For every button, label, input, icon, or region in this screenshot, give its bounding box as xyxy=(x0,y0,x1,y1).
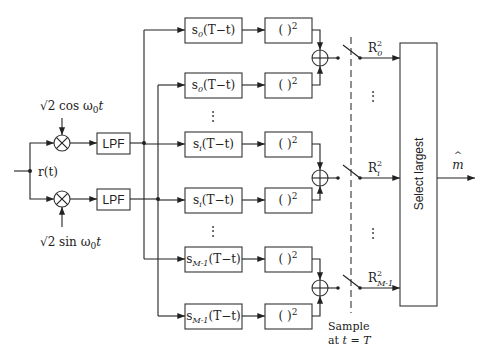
sin-reference-label: √2 sin ω0t xyxy=(40,235,101,251)
select-largest-block: Select largest xyxy=(400,43,437,306)
filter-row: sM-1(T−t)( )2 xyxy=(185,304,312,329)
input-label: r(t) xyxy=(38,165,58,179)
output-label: R2M-1 xyxy=(368,269,393,288)
bottom-lpf: LPF xyxy=(97,189,130,210)
squarer-to-adder xyxy=(312,296,320,316)
matched-filter: sM-1(T−t) xyxy=(185,304,242,329)
svg-text:LPF: LPF xyxy=(102,193,124,207)
cos-reference-label: √2 cos ω0t xyxy=(40,99,104,115)
filter-row: sM-1(T−t)( )2 xyxy=(185,247,312,272)
switch-input-node xyxy=(336,56,340,60)
sampler-label-line2: at t = T xyxy=(328,334,372,347)
output-ellipsis-upper: ⋮ xyxy=(367,89,379,103)
output-label: R20 xyxy=(368,39,382,58)
squarer-to-adder xyxy=(312,144,320,170)
sampler-label-line1: Sample xyxy=(328,320,370,333)
squarer: ( )2 xyxy=(265,18,312,43)
squarer: ( )2 xyxy=(265,188,312,213)
output-ellipsis-lower: ⋮ xyxy=(367,226,379,240)
matched-filter-label: si(T−t) xyxy=(193,193,234,209)
decision-result-label: m xyxy=(452,158,463,172)
matched-filter: si(T−t) xyxy=(185,188,242,213)
receiver-diagram: r(t) √2 cos ω0t √2 sin ω0t LPF LPF s0(T−… xyxy=(0,0,488,351)
squarer: ( )2 xyxy=(265,73,312,98)
sampling-switch xyxy=(343,275,362,290)
adder xyxy=(312,170,328,186)
matched-filter: s0(T−t) xyxy=(185,73,242,98)
filter-row: si(T−t)( )2 xyxy=(185,188,312,213)
top-mixer xyxy=(54,135,70,151)
squarer-to-adder xyxy=(312,186,320,200)
squarer: ( )2 xyxy=(265,247,312,272)
squarer-to-adder xyxy=(312,30,320,50)
bottom-mixer xyxy=(54,191,70,207)
matched-filter: s0(T−t) xyxy=(185,18,242,43)
filter-row: si(T−t)( )2 xyxy=(185,132,312,157)
squarer-to-adder xyxy=(312,259,320,280)
matched-filter: sM-1(T−t) xyxy=(185,247,242,272)
sampling-switch xyxy=(343,45,362,60)
squarer: ( )2 xyxy=(265,304,312,329)
adder xyxy=(312,50,328,66)
squarer: ( )2 xyxy=(265,132,312,157)
output-label: R2i xyxy=(368,159,382,178)
select-largest-label: Select largest xyxy=(412,137,426,210)
switch-input-node xyxy=(336,176,340,180)
squarer-to-adder xyxy=(312,66,320,85)
ellipsis-upper: ⋮ xyxy=(207,109,219,123)
matched-filter-label: si(T−t) xyxy=(193,137,234,153)
sampling-switch xyxy=(343,165,362,180)
decision-result-hat: ^ xyxy=(454,149,462,160)
filter-row: s0(T−t)( )2 xyxy=(185,18,312,43)
switch-input-node xyxy=(336,286,340,290)
filter-row: s0(T−t)( )2 xyxy=(185,73,312,98)
ellipsis-lower: ⋮ xyxy=(207,224,219,238)
adder xyxy=(312,280,328,296)
matched-filter: si(T−t) xyxy=(185,132,242,157)
svg-text:LPF: LPF xyxy=(102,137,124,151)
top-lpf: LPF xyxy=(97,133,130,154)
